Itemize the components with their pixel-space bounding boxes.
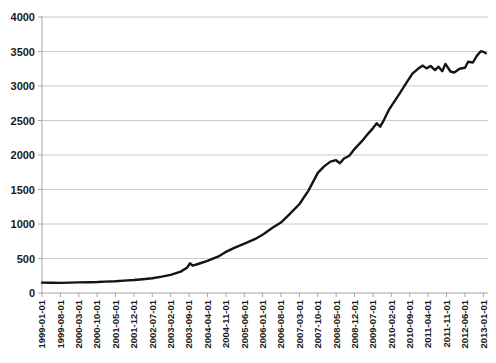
y-axis-tick-label: 2000 (11, 149, 35, 161)
x-axis-tick-label: 2006-01-01 (257, 299, 268, 348)
x-axis-tick-label: 2000-03-01 (73, 299, 84, 348)
y-axis-tick-label: 2500 (11, 115, 35, 127)
x-axis-tick-label: 2001-12-01 (128, 299, 139, 348)
y-axis-tick-label: 1000 (11, 218, 35, 230)
x-axis-tick-label: 2006-08-01 (275, 299, 286, 348)
x-axis-tick-label: 2011-11-01 (441, 299, 452, 347)
y-axis-tick-label: 4000 (11, 11, 35, 23)
chart-area: 050010001500200025003000350040001999-01-… (0, 0, 496, 363)
x-axis-tick-label: 2010-09-01 (404, 299, 415, 348)
x-axis-tick-label: 1999-01-01 (36, 299, 47, 348)
x-axis-tick-label: 2012-06-01 (459, 299, 470, 348)
x-axis-tick-label: 2003-02-01 (165, 299, 176, 348)
y-axis-tick-label: 500 (17, 253, 35, 265)
x-axis-tick-label: 2010-02-01 (386, 299, 397, 348)
y-axis-tick-label: 1500 (11, 184, 35, 196)
x-axis-tick-label: 2011-04-01 (422, 299, 433, 348)
x-axis-tick-label: 2013-01-01 (478, 299, 489, 348)
line-chart: 050010001500200025003000350040001999-01-… (0, 0, 496, 363)
x-axis-tick-label: 2003-09-01 (183, 299, 194, 348)
x-axis-tick-label: 2007-10-01 (312, 299, 323, 348)
x-axis-tick-label: 2007-03-01 (294, 299, 305, 348)
y-axis-tick-label: 3500 (11, 46, 35, 58)
x-axis-tick-label: 2008-05-01 (331, 299, 342, 348)
x-axis-tick-label: 1999-08-01 (55, 299, 66, 348)
x-axis-tick-label: 2001-05-01 (110, 299, 121, 348)
x-axis-tick-label: 2008-12-01 (349, 299, 360, 348)
x-axis-tick-label: 2004-04-01 (202, 299, 213, 348)
x-axis-tick-label: 2004-11-01 (220, 299, 231, 348)
y-axis-tick-label: 3000 (11, 80, 35, 92)
x-axis-tick-label: 2005-06-01 (239, 299, 250, 348)
x-axis-tick-label: 2009-07-01 (367, 299, 378, 348)
y-axis-tick-label: 0 (29, 287, 35, 299)
x-axis-tick-label: 2002-07-01 (147, 299, 158, 348)
x-axis-tick-label: 2000-10-01 (91, 299, 102, 348)
